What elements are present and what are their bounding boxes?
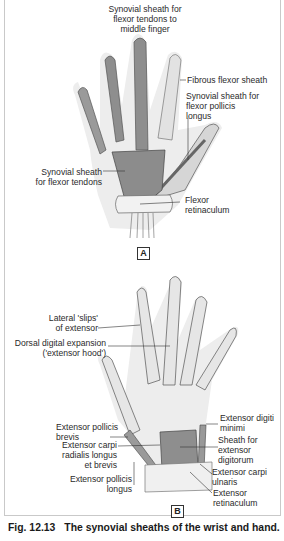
label-line: middle finger [100,24,190,34]
label-line: flexor pollicis [186,101,259,111]
label-extensor-pollicis-brevis: Extensor pollicis brevis [56,422,118,442]
label-lateral-slips: Lateral 'slips' of extensor [30,313,98,333]
label-line: Synovial sheath for [186,91,259,101]
label-line: Extensor digiti [220,413,274,423]
label-line: Sheath for [218,435,258,445]
label-line: minimi [220,423,274,433]
label-extensor-retinaculum: Extensor retinaculum [213,488,257,508]
label-line: Dorsal digital expansion [10,338,106,348]
label-extensor-carpi-ulnaris: Extensor carpi ulnaris [212,467,267,487]
label-line: for flexor tendons [30,177,102,187]
label-line: Extensor carpi [55,440,117,450]
label-line: Lateral 'slips' [30,313,98,323]
label-line: ('extensor hood') [10,348,106,358]
label-line: ulnaris [212,477,267,487]
label-line: retinaculum [213,498,257,508]
label-synovial-sheath-middle-finger: Synovial sheath for flexor tendons to mi… [100,4,190,34]
label-line: et brevis [55,460,117,470]
label-line: flexor tendons to [100,14,190,24]
figure-caption: Fig. 12.13The synovial sheaths of the wr… [8,522,280,533]
label-line: Extensor [213,488,257,498]
label-line: Synovial sheath for [100,4,190,14]
label-line: Extensor carpi [212,467,267,477]
label-line: longus [186,111,259,121]
label-line: Extensor pollicis [56,422,118,432]
label-fibrous-flexor-sheath: Fibrous flexor sheath [187,75,267,85]
figure-number: Fig. 12.13 [8,522,55,533]
panel-a-tag: A [137,247,150,260]
label-line: Flexor [185,195,229,205]
panel-b-tag: B [171,505,184,518]
label-extensor-digiti-minimi: Extensor digiti minimi [220,413,274,433]
label-line: longus [60,484,132,494]
label-common-synovial-sheath: Synovial sheath for flexor tendons [30,167,102,187]
figure-caption-text: The synovial sheaths of the wrist and ha… [64,522,279,533]
label-line: retinaculum [185,205,229,215]
label-line: extensor [218,445,258,455]
label-synovial-sheath-fpl: Synovial sheath for flexor pollicis long… [186,91,259,121]
label-line: Synovial sheath [30,167,102,177]
label-line: Extensor pollicis [60,474,132,484]
label-extensor-pollicis-longus: Extensor pollicis longus [60,474,132,494]
label-dorsal-digital-expansion: Dorsal digital expansion ('extensor hood… [10,338,106,358]
label-line: radialis longus [55,450,117,460]
label-sheath-extensor-digitorum: Sheath for extensor digitorum [218,435,258,465]
middle-finger-sheath [134,38,148,150]
label-extensor-carpi-radialis: Extensor carpi radialis longus et brevis [55,440,117,470]
label-flexor-retinaculum: Flexor retinaculum [185,195,229,215]
extensor-retinaculum-band [145,462,212,492]
label-line: of extensor [30,323,98,333]
label-line: digitorum [218,455,258,465]
